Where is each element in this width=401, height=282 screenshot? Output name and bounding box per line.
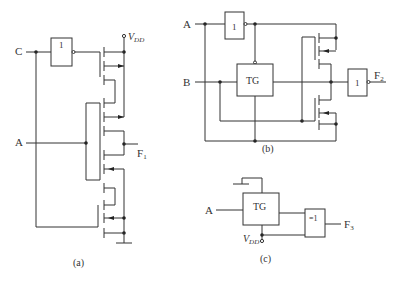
input-b-label-b: B [183,76,190,88]
inverter-label-b: 1 [232,22,237,32]
tg-label-b: TG [246,75,259,86]
caption-b: (b) [262,143,274,155]
circuit-c: TG A =1 VDD F3 (c) [205,178,354,265]
output-f2-label: F2 [374,69,384,83]
tg-label-c: TG [253,201,266,212]
inverter-label-a: 1 [59,40,64,50]
input-a-label-a: A [15,136,23,148]
input-c-label: C [15,45,22,57]
output-f3-label: F3 [344,218,354,232]
circuit-b: A 1 TG B [183,12,386,155]
xor-label-c: =1 [309,214,318,223]
circuit-a: C 1 VDD [15,31,147,269]
caption-a: (a) [73,257,84,269]
caption-c: (c) [260,253,271,265]
vdd-label-a: VDD [128,31,144,44]
input-a-label-b: A [183,18,191,30]
vdd-label-c: VDD [243,233,259,246]
input-a-label-c: A [205,204,213,216]
circuit-diagrams: C 1 VDD [0,0,401,282]
output-f1-label: F1 [137,147,147,161]
output-inverter-label-b: 1 [355,78,360,88]
